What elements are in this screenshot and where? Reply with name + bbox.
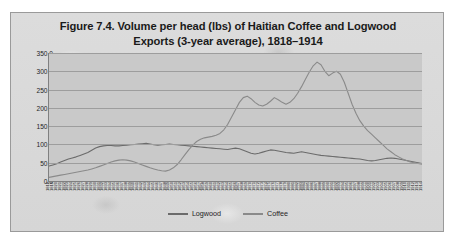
- gridline: [49, 126, 422, 127]
- x-axis-tick: 1914: [419, 182, 423, 191]
- gridline: [49, 163, 422, 164]
- legend-label-coffee: Coffee: [267, 209, 288, 218]
- plot-wrapper: 0.050.0100.0150.0200.0250.0300.0350.0 18…: [11, 13, 444, 232]
- legend-swatch-coffee: [243, 213, 263, 215]
- gridline: [49, 144, 422, 145]
- series-lines: [49, 53, 422, 181]
- figure-panel: Figure 7.4. Volume per head (lbs) of Hai…: [10, 12, 444, 232]
- legend-item-logwood: Logwood: [168, 209, 221, 218]
- gridline: [49, 90, 422, 91]
- plot-area: [48, 53, 422, 182]
- gridline: [49, 71, 422, 72]
- gridline: [49, 108, 422, 109]
- legend-swatch-logwood: [168, 213, 188, 215]
- gridline: [49, 53, 422, 54]
- chart-legend: Logwood Coffee: [11, 209, 444, 218]
- legend-item-coffee: Coffee: [243, 209, 288, 218]
- legend-label-logwood: Logwood: [192, 209, 221, 218]
- x-axis-labels: 1818181918201821182218231824182518261827…: [48, 182, 421, 208]
